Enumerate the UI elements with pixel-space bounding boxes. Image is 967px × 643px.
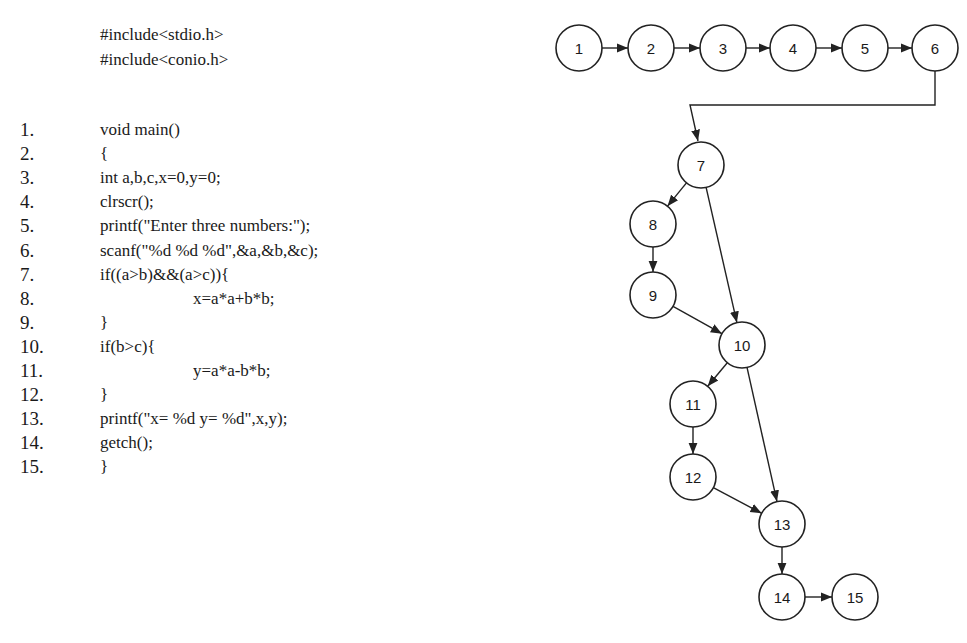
node-label: 15 xyxy=(847,589,864,606)
graph-node-6: 6 xyxy=(912,25,958,71)
edge-10-to-13 xyxy=(747,367,777,501)
edge-6-to-7 xyxy=(690,71,935,141)
node-label: 11 xyxy=(685,396,701,413)
graph-nodes: 123456789101112131415 xyxy=(556,25,958,620)
node-label: 2 xyxy=(647,40,655,57)
node-label: 3 xyxy=(719,40,727,57)
node-label: 7 xyxy=(697,157,705,174)
edge-9-to-10 xyxy=(673,306,722,333)
graph-node-11: 11 xyxy=(670,381,716,427)
node-label: 1 xyxy=(575,40,583,57)
graph-node-5: 5 xyxy=(842,25,888,71)
node-label: 8 xyxy=(649,216,657,233)
edge-12-to-13 xyxy=(713,488,761,514)
node-label: 9 xyxy=(649,287,657,304)
graph-node-9: 9 xyxy=(630,272,676,318)
edge-10-to-11 xyxy=(708,363,728,387)
graph-node-8: 8 xyxy=(630,201,676,247)
graph-node-10: 10 xyxy=(719,322,765,368)
graph-node-14: 14 xyxy=(759,574,805,620)
edge-7-to-8 xyxy=(668,183,687,206)
node-label: 4 xyxy=(789,40,797,57)
graph-node-12: 12 xyxy=(670,454,716,500)
graph-node-1: 1 xyxy=(556,25,602,71)
node-label: 6 xyxy=(931,40,939,57)
node-label: 5 xyxy=(861,40,869,57)
node-label: 12 xyxy=(685,469,702,486)
control-flow-graph: 123456789101112131415 xyxy=(0,0,967,643)
edge-7-to-10 xyxy=(706,187,737,322)
graph-node-3: 3 xyxy=(700,25,746,71)
node-label: 13 xyxy=(774,516,791,533)
node-label: 10 xyxy=(734,337,751,354)
graph-node-4: 4 xyxy=(770,25,816,71)
graph-node-2: 2 xyxy=(628,25,674,71)
graph-node-7: 7 xyxy=(678,142,724,188)
node-label: 14 xyxy=(774,589,791,606)
graph-node-15: 15 xyxy=(832,574,878,620)
graph-node-13: 13 xyxy=(759,501,805,547)
